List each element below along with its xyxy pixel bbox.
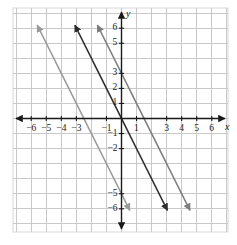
y-tick-label: 3 [113,68,118,78]
y-tick-label: −1 [108,129,118,139]
x-tick-label: −6 [26,124,36,134]
y-tick-label: 6 [113,23,118,33]
x-tick-label: −5 [41,124,51,134]
x-axis-title: x [225,122,229,132]
y-tick-label: 1 [113,98,118,108]
y-tick-label: −6 [108,204,118,214]
x-tick-label: 4 [179,124,184,134]
x-tick-label: 3 [164,124,169,134]
x-tick-label: 6 [209,124,214,134]
x-tick-label: −4 [56,124,66,134]
x-tick-label: 5 [194,124,199,134]
x-tick-label: 1 [134,124,139,134]
y-tick-label: −2 [108,144,118,154]
y-tick-label: −5 [108,189,118,199]
y-axis-title: y [126,9,130,19]
x-tick-label: −3 [71,124,81,134]
coordinate-plane-figure: −6−5−4−3−113456 65321−1−2−5−6 x y [0,0,237,245]
y-tick-label: 5 [113,38,118,48]
y-tick-label: 2 [113,83,118,93]
